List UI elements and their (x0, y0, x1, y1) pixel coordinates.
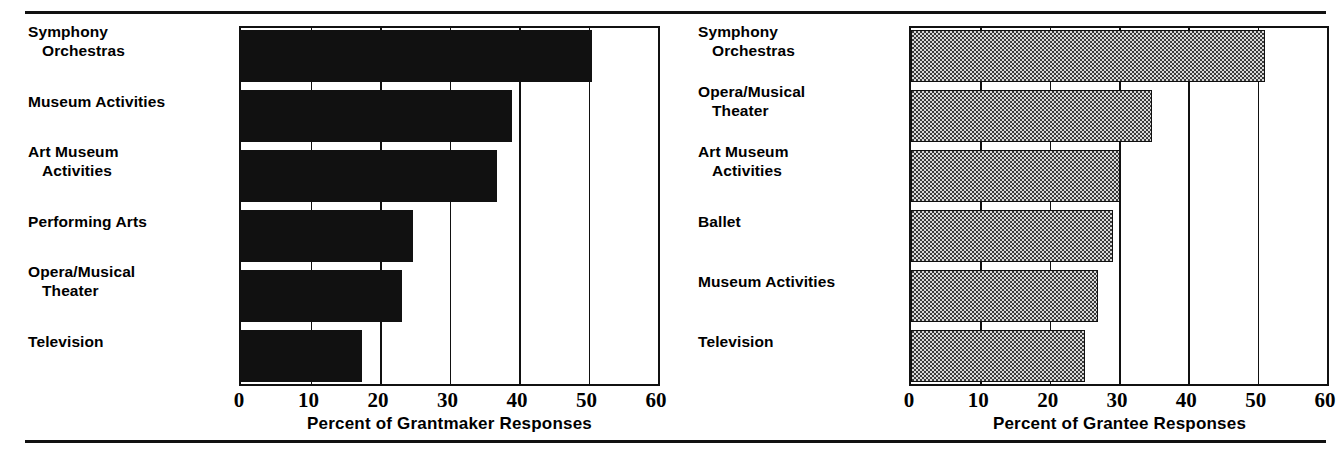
x-tick-label: 10 (298, 388, 319, 413)
x-tick-label: 50 (576, 388, 597, 413)
grantmaker-x-axis-title: Percent of Grantmaker Responses (239, 414, 660, 434)
bar (911, 150, 1120, 202)
category-label-line: Orchestras (698, 42, 882, 61)
x-tick-label: 60 (646, 388, 667, 413)
bar (911, 330, 1085, 382)
category-label: Art MuseumActivities (670, 143, 882, 180)
category-label: Opera/MusicalTheater (0, 263, 212, 300)
charts-container: SymphonyOrchestrasMuseum ActivitiesArt M… (0, 14, 1340, 439)
category-label-line: Art Museum (28, 143, 119, 160)
grantmaker-chart: SymphonyOrchestrasMuseum ActivitiesArt M… (0, 14, 670, 439)
x-tick-label: 0 (234, 388, 245, 413)
category-label: Television (670, 333, 882, 352)
category-label-line: Symphony (698, 23, 778, 40)
bar (241, 330, 362, 382)
bar (911, 270, 1098, 322)
category-label-line: Orchestras (28, 42, 212, 61)
category-label-line: Opera/Musical (698, 83, 805, 100)
category-label-line: Art Museum (698, 143, 789, 160)
category-label: Opera/MusicalTheater (670, 83, 882, 120)
category-label-line: Television (28, 333, 104, 350)
bar (911, 30, 1265, 82)
category-label-line: Theater (28, 282, 212, 301)
category-label-line: Television (698, 333, 774, 350)
x-tick-label: 60 (1315, 388, 1336, 413)
category-label-line: Symphony (28, 23, 108, 40)
category-label-line: Theater (698, 102, 882, 121)
grantee-chart: SymphonyOrchestrasOpera/MusicalTheaterAr… (670, 14, 1340, 439)
x-tick-label: 50 (1245, 388, 1266, 413)
x-tick-label: 30 (1107, 388, 1128, 413)
category-label: Ballet (670, 213, 882, 232)
grantmaker-category-labels: SymphonyOrchestrasMuseum ActivitiesArt M… (0, 24, 212, 384)
category-label-line: Opera/Musical (28, 263, 135, 280)
x-tick-label: 30 (437, 388, 458, 413)
x-tick-label: 40 (1176, 388, 1197, 413)
bottom-rule (25, 440, 1326, 443)
grantee-x-axis-title: Percent of Grantee Responses (909, 414, 1330, 434)
grantee-category-labels: SymphonyOrchestrasOpera/MusicalTheaterAr… (670, 24, 882, 384)
bar (241, 30, 592, 82)
bar (911, 90, 1152, 142)
category-label: Performing Arts (0, 213, 212, 232)
category-label-line: Museum Activities (698, 273, 835, 290)
category-label-line: Museum Activities (28, 93, 165, 110)
x-tick-label: 20 (1037, 388, 1058, 413)
x-tick-label: 10 (968, 388, 989, 413)
category-label: Museum Activities (670, 273, 882, 292)
bar (241, 210, 413, 262)
category-label: Television (0, 333, 212, 352)
figure-panel: SymphonyOrchestrasMuseum ActivitiesArt M… (0, 0, 1340, 453)
grantee-plot-area (909, 26, 1329, 386)
bar (241, 270, 402, 322)
category-label-line: Performing Arts (28, 213, 147, 230)
bar (241, 90, 512, 142)
category-label: Art MuseumActivities (0, 143, 212, 180)
category-label: SymphonyOrchestras (0, 23, 212, 60)
x-tick-label: 20 (368, 388, 389, 413)
bar (241, 150, 497, 202)
category-label: SymphonyOrchestras (670, 23, 882, 60)
x-tick-label: 0 (904, 388, 915, 413)
category-label-line: Activities (698, 162, 882, 181)
category-label-line: Ballet (698, 213, 741, 230)
x-tick-label: 40 (507, 388, 528, 413)
category-label-line: Activities (28, 162, 212, 181)
bar (911, 210, 1113, 262)
grantmaker-plot-area (239, 26, 660, 386)
category-label: Museum Activities (0, 93, 212, 112)
